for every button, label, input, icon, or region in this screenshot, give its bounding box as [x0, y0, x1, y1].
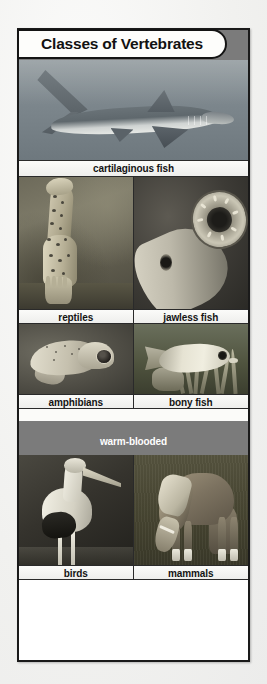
shallow-water — [19, 547, 133, 565]
lamprey-tooth — [232, 210, 239, 215]
caption-row-reptiles-jawless: reptiles jawless fish — [19, 309, 248, 324]
caption-amphibians: amphibians — [19, 394, 134, 409]
lamprey-tooth — [206, 231, 211, 238]
fish-eye — [218, 351, 227, 360]
gecko-toe — [63, 276, 67, 287]
gecko-spot — [61, 201, 64, 204]
caption-reptiles: reptiles — [19, 309, 134, 324]
photo-birds — [19, 455, 134, 565]
lamprey-tooth — [199, 203, 206, 209]
photo-amphibians — [19, 324, 134, 394]
gecko-toe — [58, 276, 62, 287]
page-background: Classes of Vertebrates Cold-blooded cart… — [0, 0, 267, 684]
horse-sock-marking — [218, 549, 226, 561]
section-heading-label: warm-blooded — [100, 436, 167, 447]
lamprey-tooth — [197, 218, 203, 222]
fish-mouth — [229, 358, 238, 364]
gecko-toe — [46, 276, 50, 287]
photo-row-amphibians-bony — [19, 324, 248, 394]
lamprey-tooth — [213, 196, 217, 202]
caption-birds: birds — [19, 565, 134, 580]
gecko-spot — [50, 222, 54, 225]
page-title: Classes of Vertebrates — [41, 35, 203, 53]
caption-row-birds-mammals: birds mammals — [19, 565, 248, 580]
shark-gill-slit — [200, 116, 201, 125]
caption-jawless-fish: jawless fish — [134, 309, 249, 324]
photo-row-reptiles-jawless — [19, 177, 248, 309]
caption-cartilaginous-fish: cartilaginous fish — [19, 160, 248, 177]
gecko-spot — [60, 214, 63, 217]
lamprey-eye — [160, 254, 173, 271]
caption-mammals: mammals — [134, 565, 249, 580]
shark-pelvic-fin — [111, 128, 134, 142]
lamprey-tooth — [230, 226, 237, 231]
photo-mammals — [134, 455, 249, 565]
gecko-spot — [58, 259, 62, 262]
horse-sock-marking — [172, 549, 180, 561]
frog-eye — [96, 349, 112, 364]
gecko-spot — [49, 254, 53, 257]
vertebrate-classes-poster: Classes of Vertebrates Cold-blooded cart… — [17, 28, 250, 662]
shark-gill-slit — [194, 116, 195, 125]
section-heading-warm-blooded: warm-blooded — [19, 421, 248, 455]
ground-surface — [19, 283, 133, 309]
photo-reptiles — [19, 177, 134, 309]
shark-gill-slit — [206, 116, 207, 125]
photo-bony-fish — [134, 324, 249, 394]
photo-cartilaginous-fish — [19, 60, 248, 160]
anemone-tentacle — [230, 349, 237, 394]
caption-bony-fish: bony fish — [134, 394, 249, 409]
gecko-spot — [59, 227, 62, 230]
gecko-toe — [52, 276, 56, 287]
lamprey-tooth — [224, 198, 229, 205]
caption-row-amphibians-bony: amphibians bony fish — [19, 394, 248, 409]
bird-beak — [83, 467, 122, 489]
photo-jawless-fish — [134, 177, 249, 309]
shark-gill-slit — [188, 116, 189, 125]
gecko-spot — [52, 209, 56, 212]
section-separator — [19, 409, 248, 421]
horse-sock-marking — [184, 549, 192, 561]
photo-row-birds-mammals — [19, 455, 248, 565]
shark-pectoral-fin — [152, 126, 189, 148]
poster-title-banner: Classes of Vertebrates — [17, 29, 227, 59]
gecko-spot — [67, 254, 70, 257]
horse-sock-marking — [230, 549, 238, 561]
lamprey-tooth — [220, 235, 224, 241]
frog-skin-fleck — [78, 348, 80, 350]
bird-leg — [71, 530, 75, 565]
